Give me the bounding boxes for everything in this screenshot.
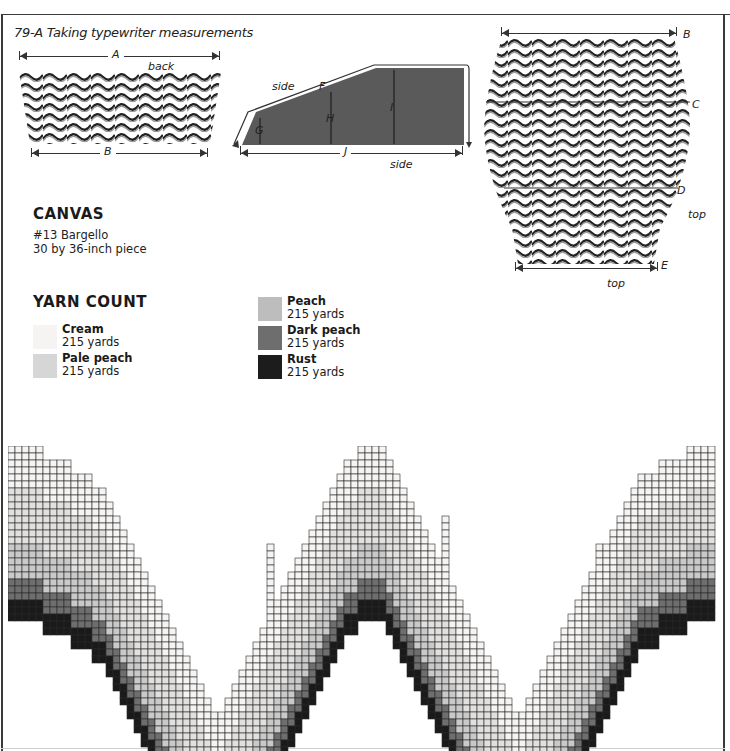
yarn-qty: 215 yards xyxy=(62,365,132,378)
canvas-type: #13 Bargello xyxy=(33,228,147,242)
figure-title: 79-A Taking typewriter measurements xyxy=(14,25,253,40)
dim-h-label: H xyxy=(326,112,334,125)
bargello-stitch-chart xyxy=(8,446,717,751)
dim-a-label: A xyxy=(108,48,124,61)
side-panel-shape xyxy=(228,62,473,148)
yarn-qty: 215 yards xyxy=(287,366,344,379)
dim-e-right-tick xyxy=(657,262,658,271)
canvas-info: #13 Bargello 30 by 36-inch piece xyxy=(33,228,147,256)
page-frame-left xyxy=(1,14,3,751)
top-label-right: top xyxy=(688,208,706,221)
dark-peach-swatch xyxy=(258,326,282,350)
canvas-heading: CANVAS xyxy=(33,205,104,223)
rust-swatch xyxy=(258,355,282,379)
dim-b2-right-tick xyxy=(676,27,677,36)
yarn-qty: 215 yards xyxy=(287,308,344,321)
page-frame-top xyxy=(1,14,730,15)
dim-i-label: I xyxy=(390,101,393,114)
dim-d-label: D xyxy=(677,184,685,197)
pale-peach-swatch xyxy=(33,354,57,378)
top-label-bottom: top xyxy=(607,277,625,290)
yarn-item-cream: Cream 215 yards xyxy=(33,323,119,349)
dim-b-label: B xyxy=(100,145,116,158)
dim-g-label: G xyxy=(255,124,264,137)
cream-swatch xyxy=(33,325,57,349)
dim-a-right-tick xyxy=(219,51,220,60)
canvas-size: 30 by 36-inch piece xyxy=(33,242,147,256)
dim-j-label: J xyxy=(340,145,351,158)
yarn-item-peach: Peach 215 yards xyxy=(258,295,344,321)
dim-b-arrow xyxy=(32,153,207,154)
dim-e-label: E xyxy=(661,259,668,272)
dim-e-arrow xyxy=(516,268,657,269)
dim-b-right-tick xyxy=(207,148,208,157)
page-frame-right xyxy=(723,14,725,751)
dim-j-arrow xyxy=(241,153,462,154)
top-panel-pattern xyxy=(484,38,696,268)
yarn-qty: 215 yards xyxy=(62,336,119,349)
yarn-item-dark-peach: Dark peach 215 yards xyxy=(258,324,360,350)
side-label-top: side xyxy=(272,80,295,93)
dim-j-right-tick xyxy=(462,146,463,155)
back-panel-pattern xyxy=(19,72,221,144)
yarn-item-rust: Rust 215 yards xyxy=(258,353,344,379)
peach-swatch xyxy=(258,297,282,321)
dim-b2-arrow xyxy=(502,33,676,34)
yarn-qty: 215 yards xyxy=(287,337,360,350)
side-label-bottom: side xyxy=(390,158,413,171)
yarn-item-pale-peach: Pale peach 215 yards xyxy=(33,352,132,378)
dim-f-label: F xyxy=(319,80,325,93)
dim-c-label: C xyxy=(692,98,700,111)
yarn-count-heading: YARN COUNT xyxy=(33,293,147,311)
